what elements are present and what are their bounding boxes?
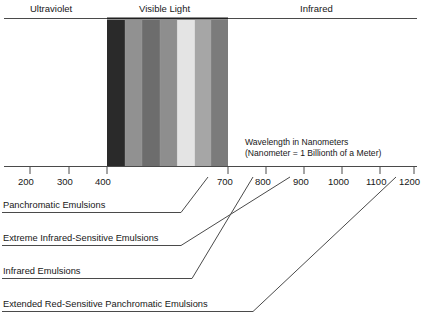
band-yellow — [177, 20, 195, 166]
wavelength-annotation-line1: Wavelength in Nanometers — [245, 138, 348, 148]
region-label-ultraviolet: Ultraviolet — [30, 4, 72, 15]
axis-ticks — [30, 167, 414, 175]
emulsion-label-extreme-infrared-sensitive: Extreme Infrared-Sensitive Emulsions — [3, 233, 159, 243]
axis-label-1200: 1200 — [399, 177, 420, 188]
axis-label-900: 900 — [293, 177, 309, 188]
band-violet — [107, 20, 125, 166]
region-label-infrared: Infrared — [300, 4, 333, 15]
emulsion-label-infrared: Infrared Emulsions — [3, 266, 81, 276]
axis-label-1100: 1100 — [366, 177, 386, 188]
band-red — [211, 20, 228, 166]
emulsion-label-panchromatic: Panchromatic Emulsions — [3, 200, 105, 210]
axis-label-300: 300 — [57, 177, 73, 188]
leader-infrared — [2, 177, 253, 279]
visible-spectrum-bands — [107, 20, 228, 166]
axis-label-800: 800 — [255, 177, 271, 188]
region-label-visible-light: Visible Light — [139, 4, 190, 15]
emulsion-leader-lines — [2, 177, 396, 312]
axis-label-1000: 1000 — [328, 177, 349, 188]
emulsion-label-extended-red-sensitive-panchromatic: Extended Red-Sensitive Panchromatic Emul… — [3, 299, 208, 309]
leader-extended-red — [2, 177, 396, 312]
band-green — [160, 20, 177, 166]
band-cyan — [142, 20, 160, 166]
axis-label-400: 400 — [95, 177, 111, 188]
spectrum-diagram: Ultraviolet Visible Light Infrared Wavel… — [0, 0, 421, 320]
band-orange — [195, 20, 211, 166]
band-blue — [125, 20, 142, 166]
axis-label-700: 700 — [217, 177, 233, 188]
axis-label-200: 200 — [18, 177, 34, 188]
wavelength-annotation-line2: (Nanometer = 1 Billionth of a Meter) — [245, 149, 381, 159]
